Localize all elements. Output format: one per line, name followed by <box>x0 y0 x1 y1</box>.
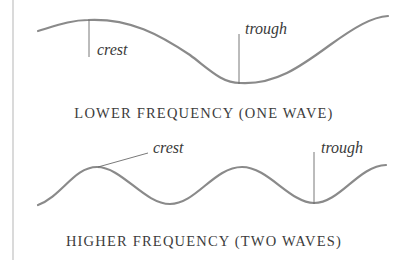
crest-pointer-bottom <box>98 153 148 167</box>
trough-label-bottom: trough <box>321 140 363 156</box>
caption-higher-frequency: HIGHER FREQUENCY (TWO WAVES) <box>0 234 408 249</box>
crest-label-bottom: crest <box>153 140 184 156</box>
diagram-canvas <box>0 0 408 260</box>
wave-frequency-diagram: crest trough LOWER FREQUENCY (ONE WAVE) … <box>0 0 408 260</box>
crest-label-top: crest <box>97 42 128 58</box>
trough-label-top: trough <box>245 21 287 37</box>
low-frequency-wave <box>38 16 388 83</box>
caption-lower-frequency: LOWER FREQUENCY (ONE WAVE) <box>0 106 408 121</box>
high-frequency-wave <box>38 165 386 205</box>
